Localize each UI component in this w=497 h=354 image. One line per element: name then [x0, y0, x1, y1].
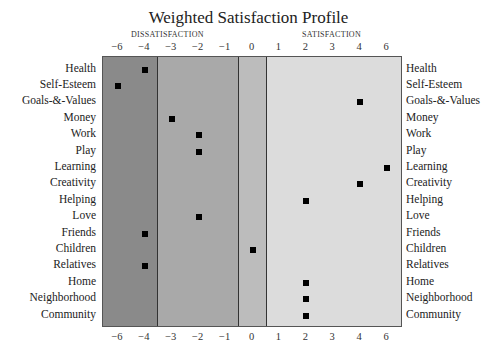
x-tick-label: −1 [215, 41, 235, 52]
category-label: Goals-&-Values [22, 94, 96, 106]
data-point-marker [142, 67, 148, 73]
data-point-marker [196, 149, 202, 155]
x-tick-label: −1 [215, 331, 235, 342]
category-label: Money [63, 111, 96, 123]
category-label: Friends [406, 226, 441, 238]
data-point-marker [142, 231, 148, 237]
satisfaction-label: SATISFACTION [302, 30, 361, 39]
x-tick-label: −3 [161, 41, 181, 52]
data-point-marker [303, 198, 309, 204]
x-tick-label: 6 [376, 331, 396, 342]
x-tick-label: −6 [107, 41, 127, 52]
category-label: Learning [54, 160, 96, 172]
plot-area [102, 56, 402, 327]
x-tick-label: −2 [188, 41, 208, 52]
category-label: Creativity [50, 176, 96, 188]
category-label: Love [406, 209, 430, 221]
category-label: Relatives [53, 258, 96, 270]
x-tick-label: 3 [322, 331, 342, 342]
category-label: Creativity [406, 176, 452, 188]
x-tick-label: 2 [295, 331, 315, 342]
category-label: Play [76, 144, 96, 156]
x-tick-label: 1 [268, 41, 288, 52]
data-point-marker [196, 132, 202, 138]
category-label: Neighborhood [406, 291, 472, 303]
category-label: Self-Esteem [406, 78, 462, 90]
x-tick-label: 4 [349, 41, 369, 52]
category-label: Health [406, 62, 437, 74]
category-label: Learning [406, 160, 448, 172]
x-tick-label: 4 [349, 331, 369, 342]
category-label: Community [41, 308, 96, 320]
data-point-marker [250, 247, 256, 253]
category-label: Love [72, 209, 96, 221]
x-tick-label: −3 [161, 331, 181, 342]
data-point-marker [303, 280, 309, 286]
x-tick-label: 3 [322, 41, 342, 52]
category-label: Work [71, 127, 96, 139]
chart-title: Weighted Satisfaction Profile [0, 8, 497, 28]
x-tick-label: 1 [268, 331, 288, 342]
x-tick-label: −4 [134, 331, 154, 342]
x-tick-label: −2 [188, 331, 208, 342]
category-label: Children [406, 242, 446, 254]
category-label: Work [406, 127, 431, 139]
data-point-marker [303, 296, 309, 302]
data-point-marker [115, 83, 121, 89]
category-label: Friends [62, 226, 97, 238]
category-label: Play [406, 144, 426, 156]
data-point-marker [196, 214, 202, 220]
category-label: Relatives [406, 258, 449, 270]
category-label: Self-Esteem [40, 78, 96, 90]
band-neutral [238, 57, 267, 326]
x-tick-label: 0 [242, 41, 262, 52]
data-point-marker [384, 165, 390, 171]
data-point-marker [357, 181, 363, 187]
band-strong-dissatisfaction [103, 57, 157, 326]
category-label: Helping [406, 193, 443, 205]
category-label: Goals-&-Values [406, 94, 480, 106]
category-label: Community [406, 308, 461, 320]
category-label: Helping [59, 193, 96, 205]
x-tick-label: 0 [242, 331, 262, 342]
data-point-marker [169, 116, 175, 122]
data-point-marker [303, 313, 309, 319]
band-satisfaction [266, 57, 401, 326]
data-point-marker [142, 263, 148, 269]
data-point-marker [357, 99, 363, 105]
category-label: Home [68, 275, 96, 287]
dissatisfaction-label: DISSATISFACTION [131, 30, 204, 39]
x-tick-label: −4 [134, 41, 154, 52]
x-tick-label: 2 [295, 41, 315, 52]
x-tick-label: −6 [107, 331, 127, 342]
category-label: Health [65, 62, 96, 74]
x-tick-label: 6 [376, 41, 396, 52]
category-label: Home [406, 275, 434, 287]
category-label: Neighborhood [30, 291, 96, 303]
category-label: Children [56, 242, 96, 254]
band-mild-dissatisfaction [157, 57, 239, 326]
category-label: Money [406, 111, 439, 123]
